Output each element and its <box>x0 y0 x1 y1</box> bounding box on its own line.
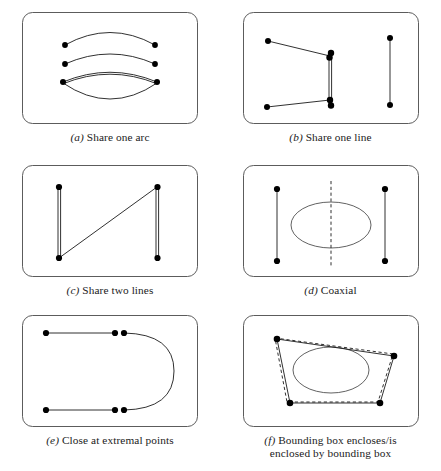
panel-cell-f: (f) Bounding box encloses/is enclosed by… <box>220 305 441 471</box>
panel-cell-a: (a) Share one arc <box>0 0 220 155</box>
panel-c-diagram <box>22 165 198 277</box>
panel-f-diagram <box>243 315 419 427</box>
panel-cell-b: (b) Share one line <box>220 0 441 155</box>
panel-a-label: (a) <box>70 131 83 143</box>
panel-f-frame <box>243 316 418 427</box>
panel-grid: (a) Share one arc <box>0 0 441 471</box>
panel-b-label: (b) <box>289 131 302 143</box>
endpoint-dot <box>273 336 280 343</box>
endpoint-dot <box>56 184 62 190</box>
panel-a-caption: (a) Share one arc <box>70 131 149 144</box>
endpoint-dot <box>264 104 270 110</box>
endpoint-dot <box>56 255 62 261</box>
endpoint-dot <box>62 61 68 67</box>
panel-c-label: (c) <box>67 284 80 296</box>
panel-cell-e: (e) Close at extremal points <box>0 305 220 471</box>
panel-a-frame <box>23 13 198 124</box>
endpoint-dot <box>387 35 393 41</box>
endpoint-dot <box>326 97 332 103</box>
endpoint-dot <box>112 330 118 336</box>
endpoint-dot <box>43 330 49 336</box>
endpoint-dot <box>121 330 127 336</box>
endpoint-dot <box>381 258 387 264</box>
endpoint-dot <box>154 255 160 261</box>
panel-e-caption: (e) Close at extremal points <box>46 434 174 447</box>
figure-container: (a) Share one arc <box>0 0 441 471</box>
endpoint-dot <box>121 407 127 413</box>
panel-d-label: (d) <box>304 284 317 296</box>
panel-f-caption-text: Bounding box encloses/is enclosed by bou… <box>270 434 397 459</box>
panel-e-label: (e) <box>46 434 59 446</box>
panel-b-caption-text: Share one line <box>306 131 372 143</box>
endpoint-dot <box>273 186 279 192</box>
panel-d-caption-text: Coaxial <box>321 284 357 296</box>
endpoint-dot <box>387 102 393 108</box>
panel-e-diagram <box>22 315 198 427</box>
endpoint-dot <box>154 79 160 85</box>
panel-e-caption-text: Close at extremal points <box>62 434 174 446</box>
endpoint-dot <box>265 38 271 44</box>
panel-cell-c: (c) Share two lines <box>0 155 220 305</box>
panel-a-diagram <box>22 12 198 124</box>
panel-d-caption: (d) Coaxial <box>304 284 356 297</box>
endpoint-dot <box>326 54 332 60</box>
panel-cell-d: (d) Coaxial <box>220 155 441 305</box>
panel-f-label: (f) <box>264 434 275 446</box>
endpoint-dot <box>62 42 68 48</box>
panel-b-diagram <box>243 12 419 124</box>
endpoint-dot <box>286 400 293 407</box>
endpoint-dot <box>390 353 397 360</box>
panel-c-caption: (c) Share two lines <box>67 284 154 297</box>
endpoint-dot <box>327 102 333 108</box>
endpoint-dot <box>376 400 383 407</box>
endpoint-dot <box>154 184 160 190</box>
endpoint-dot <box>381 186 387 192</box>
panel-d-diagram <box>243 165 419 277</box>
endpoint-dot <box>43 407 49 413</box>
endpoint-dot <box>273 258 279 264</box>
endpoint-dot <box>152 42 158 48</box>
endpoint-dot <box>152 61 158 67</box>
panel-a-caption-text: Share one arc <box>87 131 150 143</box>
endpoint-dot <box>112 407 118 413</box>
panel-b-caption: (b) Share one line <box>289 131 371 144</box>
endpoint-dot <box>60 79 66 85</box>
panel-f-caption: (f) Bounding box encloses/is enclosed by… <box>264 434 396 461</box>
panel-c-caption-text: Share two lines <box>82 284 153 296</box>
